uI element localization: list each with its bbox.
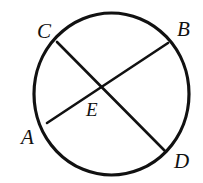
point-label-a: A	[21, 127, 34, 148]
point-label-c: C	[37, 21, 51, 42]
point-label-b: B	[177, 19, 190, 40]
chord-ab-line	[47, 43, 168, 123]
chord-cd-line	[57, 42, 165, 151]
circle-chords-drawing	[0, 0, 203, 183]
point-label-d: D	[174, 151, 189, 172]
point-label-e: E	[86, 100, 98, 119]
geometry-figure-canvas: C B A E D	[0, 0, 203, 183]
